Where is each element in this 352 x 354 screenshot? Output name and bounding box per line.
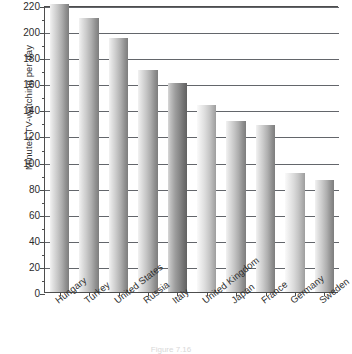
y-tick: [40, 190, 45, 191]
y-tick-label: 100: [0, 157, 40, 168]
y-tick-label: 60: [0, 209, 40, 220]
y-tick: [40, 242, 45, 243]
y-minor-tick: [42, 46, 46, 47]
y-minor-tick: [42, 98, 46, 99]
y-tick: [40, 59, 45, 60]
y-minor-tick: [42, 255, 46, 256]
bar: [50, 4, 69, 292]
y-minor-tick: [42, 72, 46, 73]
y-tick-label: 140: [0, 105, 40, 116]
y-tick: [40, 137, 45, 138]
bar: [168, 83, 187, 292]
y-minor-tick: [42, 124, 46, 125]
x-axis-category-labels: HungaryTurkeyUnited StatesRussiaItalyUni…: [44, 293, 338, 351]
y-tick-label: 120: [0, 131, 40, 142]
y-tick: [40, 164, 45, 165]
y-tick-label: 0: [0, 288, 40, 299]
y-tick-label: 200: [0, 27, 40, 38]
y-tick-label: 180: [0, 53, 40, 64]
y-tick-label: 160: [0, 79, 40, 90]
figure-caption: Figure 7.16: [96, 345, 246, 354]
y-tick-label: 80: [0, 183, 40, 194]
y-minor-tick: [42, 203, 46, 204]
plot-area: [44, 6, 338, 293]
y-tick: [40, 85, 45, 86]
bar: [138, 70, 157, 292]
bar: [79, 18, 98, 292]
y-tick: [40, 216, 45, 217]
y-tick-label: 220: [0, 1, 40, 12]
y-minor-tick: [42, 281, 46, 282]
gridline: [45, 7, 339, 8]
y-minor-tick: [42, 177, 46, 178]
y-tick: [40, 33, 45, 34]
y-tick: [40, 111, 45, 112]
y-minor-tick: [42, 20, 46, 21]
y-minor-tick: [42, 151, 46, 152]
y-tick-label: 40: [0, 235, 40, 246]
y-tick: [40, 7, 45, 8]
bar: [197, 105, 216, 292]
y-tick-label: 20: [0, 261, 40, 272]
bar: [285, 173, 304, 292]
bar: [109, 38, 128, 292]
y-minor-tick: [42, 229, 46, 230]
y-tick: [40, 268, 45, 269]
bar: [256, 125, 275, 292]
